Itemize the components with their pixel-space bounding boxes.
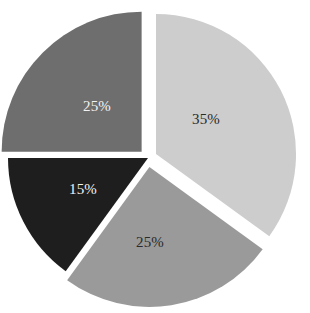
pie-slices-group [2, 12, 296, 307]
pie-chart-figure: 35% 25% 15% 25% [0, 0, 310, 313]
pie-slice-label-1: 25% [136, 234, 164, 250]
pie-slice-3[interactable] [2, 12, 142, 152]
pie-slice-label-0: 35% [192, 111, 220, 127]
pie-slice-label-2: 15% [69, 181, 97, 197]
pie-slice-label-3: 25% [83, 98, 111, 114]
pie-chart-svg: 35% 25% 15% 25% [0, 0, 310, 313]
